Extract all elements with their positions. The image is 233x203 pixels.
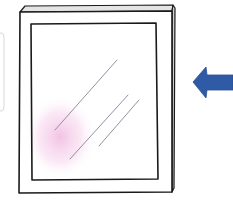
illustration [0,0,233,203]
window-illustration-svg [0,0,233,203]
pink-glow [24,95,96,179]
arrow-left-icon [193,67,233,98]
side-bracket-shape [0,33,4,111]
